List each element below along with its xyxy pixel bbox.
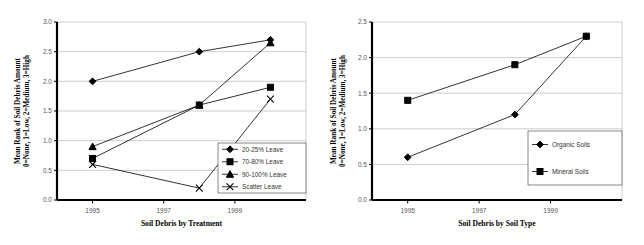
chart-panel-treatment: 0.00.51.01.52.02.53.0199519971999Soil De…: [0, 0, 322, 245]
y-axis-tick-label: 1.5: [358, 90, 367, 97]
legend-item-0[interactable]: Organic Soils: [532, 141, 590, 149]
y-axis-tick-label: 3.0: [43, 18, 52, 25]
square-marker: [583, 33, 589, 39]
data-point-3-0: [89, 161, 96, 168]
data-point-1-1: [512, 62, 518, 68]
diamond-marker: [196, 48, 203, 55]
square-marker: [90, 155, 96, 161]
legend-item-0[interactable]: 20-25% Leave: [222, 146, 284, 153]
data-point-2-0: [89, 143, 96, 150]
legend-label-0: Organic Soils: [552, 141, 590, 149]
y-axis-title-line-1: Mean Rank of Soil Debris Amount: [14, 57, 22, 164]
series-line-0: [93, 40, 271, 82]
y-axis-tick-label: 0.5: [43, 167, 52, 174]
data-point-0-1: [196, 48, 203, 55]
data-point-1-0: [405, 97, 411, 103]
square-marker: [537, 169, 543, 175]
x-axis-tick-label: 1995: [85, 207, 100, 214]
legend-label-2: 90-100% Leave: [242, 171, 287, 178]
series-line-1: [408, 36, 587, 100]
square-marker: [405, 97, 411, 103]
x-axis-title: Soil Debris by Soil Type: [458, 219, 536, 228]
data-point-1-2: [267, 84, 273, 90]
legend-marker-square: [227, 159, 233, 165]
figure-row: 0.00.51.01.52.02.53.0199519971999Soil De…: [0, 0, 644, 245]
y-axis-tick-label: 0.0: [358, 196, 367, 203]
chart-1-content: 0.00.51.01.52.02.5199519971999Soil Debri…: [330, 18, 622, 228]
legend-label-1: Mineral Soils: [552, 168, 589, 175]
y-axis-tick-label: 0.0: [43, 196, 52, 203]
data-point-3-1: [196, 185, 203, 192]
legend-marker-square: [537, 169, 543, 175]
data-point-1-0: [90, 155, 96, 161]
y-axis-tick-label: 2.0: [358, 54, 367, 61]
y-axis-title-line-2: 0=None, 1=Low, 2=Medium, 3=High: [23, 55, 31, 167]
square-marker: [227, 159, 233, 165]
legend-box: [528, 131, 622, 185]
y-axis-tick-label: 0.5: [358, 161, 367, 168]
x-axis-tick-label: 1997: [156, 207, 171, 214]
line-chart-soil-debris-by-treatment: 0.00.51.01.52.02.53.0199519971999Soil De…: [0, 0, 322, 245]
triangle-marker: [89, 143, 96, 150]
diamond-marker: [89, 78, 96, 85]
x-axis-tick-label: 1999: [543, 207, 558, 214]
legend-label-1: 70-80% Leave: [242, 158, 284, 165]
y-axis-tick-label: 1.0: [358, 125, 367, 132]
legend-item-1[interactable]: 70-80% Leave: [222, 158, 284, 165]
legend-item-1[interactable]: Mineral Soils: [532, 168, 589, 175]
y-axis-title-line-1: Mean Rank of Soil Debris Amount: [330, 57, 338, 164]
data-point-1-2: [583, 33, 589, 39]
y-axis-tick-label: 2.0: [43, 78, 52, 85]
y-axis-tick-label: 1.5: [43, 107, 52, 114]
data-point-0-0: [404, 154, 411, 161]
series-line-2: [93, 43, 271, 147]
x-axis-title: Soil Debris by Treatment: [141, 219, 223, 228]
data-point-3-2: [267, 96, 274, 103]
y-axis-tick-label: 2.5: [358, 18, 367, 25]
y-axis-tick-label: 1.0: [43, 137, 52, 144]
data-point-0-0: [89, 78, 96, 85]
y-axis-title-line-2: 0=None, 1=Low, 2=Medium, 3=High: [339, 55, 347, 167]
chart-panel-soil-type: 0.00.51.01.52.02.5199519971999Soil Debri…: [322, 0, 644, 245]
line-chart-soil-debris-by-soil-type: 0.00.51.01.52.02.5199519971999Soil Debri…: [322, 0, 644, 245]
diamond-marker: [404, 154, 411, 161]
legend-label-0: 20-25% Leave: [242, 146, 284, 153]
y-axis-tick-label: 2.5: [43, 48, 52, 55]
square-marker: [512, 62, 518, 68]
x-axis-tick-label: 1995: [400, 207, 415, 214]
square-marker: [267, 84, 273, 90]
x-axis-tick-label: 1999: [228, 207, 243, 214]
legend-label-3: Scatter Leave: [242, 183, 282, 190]
x-axis-tick-label: 1997: [472, 207, 487, 214]
